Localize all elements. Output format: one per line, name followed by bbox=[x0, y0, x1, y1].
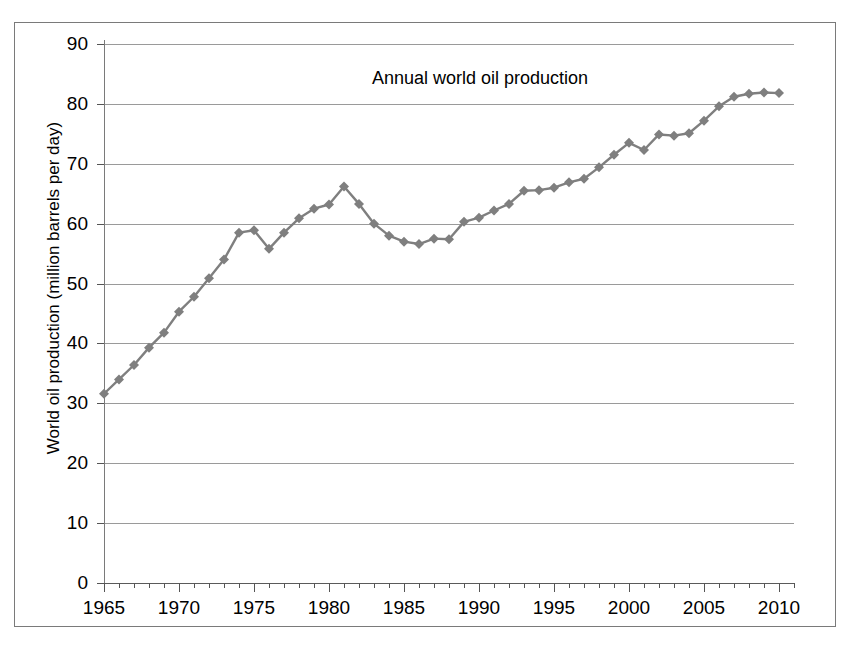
y-tick-label: 0 bbox=[44, 573, 88, 592]
x-tick-minor bbox=[209, 583, 210, 588]
x-tick-label: 1985 bbox=[364, 598, 444, 619]
x-tick-minor bbox=[734, 583, 735, 588]
x-tick-minor bbox=[389, 583, 390, 588]
y-tick-label: 30 bbox=[44, 393, 88, 412]
y-axis-line bbox=[104, 40, 105, 587]
x-tick-major bbox=[704, 583, 705, 592]
x-tick-minor bbox=[149, 583, 150, 588]
y-tick-label: 70 bbox=[44, 154, 88, 173]
x-tick-minor bbox=[569, 583, 570, 588]
x-tick-minor bbox=[164, 583, 165, 588]
x-tick-minor bbox=[689, 583, 690, 588]
x-tick-minor bbox=[359, 583, 360, 588]
x-tick-minor bbox=[644, 583, 645, 588]
gridline bbox=[104, 343, 794, 344]
y-tick-label: 90 bbox=[44, 34, 88, 53]
x-tick-major bbox=[179, 583, 180, 592]
x-tick-minor bbox=[659, 583, 660, 588]
plot-area bbox=[104, 44, 794, 583]
gridline bbox=[104, 224, 794, 225]
y-tick-mark bbox=[97, 403, 104, 404]
y-tick-label: 20 bbox=[44, 453, 88, 472]
x-tick-minor bbox=[374, 583, 375, 588]
x-tick-minor bbox=[749, 583, 750, 588]
gridline bbox=[104, 523, 794, 524]
y-tick-mark bbox=[97, 463, 104, 464]
x-tick-minor bbox=[674, 583, 675, 588]
x-tick-minor bbox=[284, 583, 285, 588]
x-tick-major bbox=[479, 583, 480, 592]
x-tick-minor bbox=[239, 583, 240, 588]
x-tick-minor bbox=[224, 583, 225, 588]
x-tick-label: 2005 bbox=[664, 598, 744, 619]
x-tick-minor bbox=[539, 583, 540, 588]
y-tick-label: 40 bbox=[44, 333, 88, 352]
y-tick-mark bbox=[97, 343, 104, 344]
x-tick-label: 2000 bbox=[589, 598, 669, 619]
x-tick-label: 1995 bbox=[514, 598, 594, 619]
gridline bbox=[104, 284, 794, 285]
y-tick-mark bbox=[97, 44, 104, 45]
x-tick-label: 1975 bbox=[214, 598, 294, 619]
x-tick-major bbox=[779, 583, 780, 592]
y-tick-mark bbox=[97, 523, 104, 524]
x-tick-major bbox=[254, 583, 255, 592]
x-tick-minor bbox=[194, 583, 195, 588]
y-tick-mark bbox=[97, 284, 104, 285]
gridline bbox=[104, 164, 794, 165]
x-tick-major bbox=[554, 583, 555, 592]
x-tick-minor bbox=[269, 583, 270, 588]
x-tick-minor bbox=[584, 583, 585, 588]
gridline bbox=[104, 463, 794, 464]
x-tick-label: 1980 bbox=[289, 598, 369, 619]
x-tick-minor bbox=[419, 583, 420, 588]
y-tick-label: 50 bbox=[44, 274, 88, 293]
x-tick-minor bbox=[434, 583, 435, 588]
y-tick-label: 80 bbox=[44, 94, 88, 113]
y-tick-mark bbox=[97, 583, 104, 584]
y-tick-label: 10 bbox=[44, 513, 88, 532]
x-tick-minor bbox=[299, 583, 300, 588]
x-tick-minor bbox=[119, 583, 120, 588]
x-tick-minor bbox=[764, 583, 765, 588]
x-tick-minor bbox=[449, 583, 450, 588]
x-tick-label: 2010 bbox=[739, 598, 819, 619]
chart-page: World oil production (million barrels pe… bbox=[0, 0, 852, 649]
x-tick-minor bbox=[134, 583, 135, 588]
gridline bbox=[104, 104, 794, 105]
x-tick-minor bbox=[719, 583, 720, 588]
x-tick-label: 1970 bbox=[139, 598, 219, 619]
x-tick-major bbox=[104, 583, 105, 592]
y-tick-mark bbox=[97, 104, 104, 105]
x-tick-major bbox=[629, 583, 630, 592]
x-tick-minor bbox=[524, 583, 525, 588]
y-tick-mark bbox=[97, 164, 104, 165]
x-tick-minor bbox=[794, 583, 795, 588]
x-tick-label: 1965 bbox=[64, 598, 144, 619]
x-tick-minor bbox=[494, 583, 495, 588]
y-tick-mark bbox=[97, 224, 104, 225]
x-tick-minor bbox=[614, 583, 615, 588]
x-tick-minor bbox=[464, 583, 465, 588]
x-tick-minor bbox=[314, 583, 315, 588]
y-tick-label: 60 bbox=[44, 214, 88, 233]
gridline bbox=[104, 44, 794, 45]
x-tick-minor bbox=[509, 583, 510, 588]
x-tick-minor bbox=[599, 583, 600, 588]
x-tick-major bbox=[329, 583, 330, 592]
x-tick-major bbox=[404, 583, 405, 592]
gridline bbox=[104, 403, 794, 404]
x-tick-label: 1990 bbox=[439, 598, 519, 619]
x-tick-minor bbox=[344, 583, 345, 588]
